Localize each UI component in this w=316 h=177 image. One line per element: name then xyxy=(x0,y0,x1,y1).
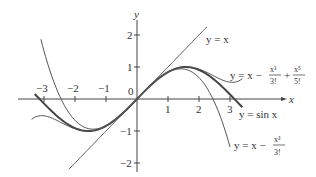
x-tick-label: −2 xyxy=(67,82,79,94)
label-quintic-x3: x³ xyxy=(270,65,277,74)
x-tick-label: 1 xyxy=(165,103,171,115)
x-tick-label: −3 xyxy=(36,82,48,94)
x-tick-label: 3 xyxy=(227,103,233,115)
label-quintic: y = x − x³ 3! + x⁵ 5! xyxy=(230,65,305,86)
label-cubic-3fact: 3! xyxy=(274,148,281,157)
x-tick-label: −1 xyxy=(98,82,110,94)
label-quintic-plus: + xyxy=(284,69,290,81)
label-cubic: y = x − x³ 3! xyxy=(234,135,285,157)
label-y-equals-x: y = x xyxy=(206,33,229,45)
label-quintic-prefix: y = x − xyxy=(230,69,262,81)
label-cubic-prefix: y = x − xyxy=(234,139,266,151)
label-cubic-x3: x³ xyxy=(274,135,281,144)
x-tick-label: 2 xyxy=(196,103,202,115)
x-axis-arrow xyxy=(281,97,287,101)
y-tick-label: −2 xyxy=(120,157,132,169)
label-sin: y = sin x xyxy=(239,108,278,120)
label-quintic-x5: x⁵ xyxy=(294,65,301,74)
label-quintic-3fact: 3! xyxy=(270,77,277,86)
origin-label: 0 xyxy=(128,85,134,97)
x-axis-label: x xyxy=(288,93,294,105)
taylor-polynomial-chart: x y 0 −3 −2 −1 1 2 3 2 1 −1 −2 y = x y =… xyxy=(0,0,316,177)
y-tick-label: 1 xyxy=(127,61,133,73)
y-axis-label: y xyxy=(133,8,139,20)
y-tick-label: 2 xyxy=(127,29,133,41)
y-tick-label: −1 xyxy=(120,125,132,137)
label-quintic-5fact: 5! xyxy=(294,77,301,86)
